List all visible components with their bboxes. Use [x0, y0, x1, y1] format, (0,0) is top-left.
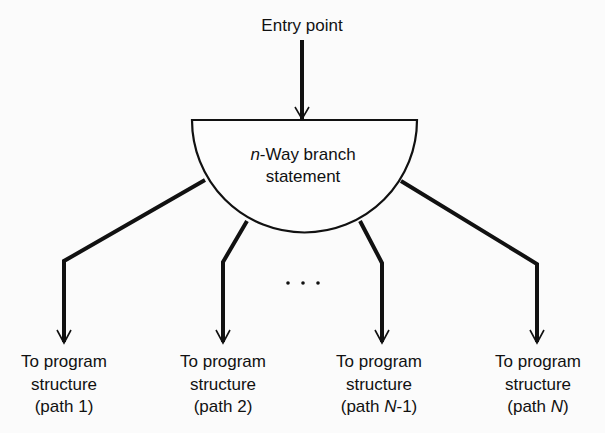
output-label-line: To program — [314, 351, 444, 374]
output-label-line: (path 2) — [158, 396, 288, 419]
path-suffix: 2) — [237, 397, 252, 416]
branch-path-n-minus-1 — [360, 221, 389, 343]
output-label-line: (path 1) — [0, 396, 129, 419]
output-label-path-1: To program structure (path 1) — [0, 351, 129, 419]
path-prefix: (path — [341, 397, 384, 416]
path-suffix: ) — [563, 397, 569, 416]
branch-node-prefix: n — [250, 145, 259, 164]
branch-path-2 — [216, 221, 247, 343]
output-label-line: To program — [0, 351, 129, 374]
path-prefix: (path — [194, 397, 237, 416]
path-variable: N — [551, 397, 563, 416]
path-prefix: (path — [507, 397, 550, 416]
branch-node-line-1: n-Way branch — [203, 144, 403, 166]
output-label-path-n-minus-1: To program structure (path N-1) — [314, 351, 444, 419]
output-label-line: structure — [0, 374, 129, 397]
path-prefix: (path — [35, 397, 78, 416]
branch-node-label: n-Way branch statement — [203, 144, 403, 188]
output-label-line: (path N-1) — [314, 396, 444, 419]
branch-path-n — [401, 181, 544, 343]
entry-arrow — [295, 40, 309, 119]
path-variable: N — [384, 397, 396, 416]
path-suffix: 1) — [78, 397, 93, 416]
branch-node-line-2: statement — [203, 166, 403, 188]
output-label-path-n: To program structure (path N) — [473, 351, 603, 419]
output-label-line: To program — [158, 351, 288, 374]
ellipsis-dots — [286, 281, 320, 285]
diagram-canvas: Entry point n-Way branch statement To pr… — [0, 0, 605, 433]
output-label-line: structure — [473, 374, 603, 397]
output-label-path-2: To program structure (path 2) — [158, 351, 288, 419]
path-suffix: -1) — [396, 397, 417, 416]
output-label-line: structure — [158, 374, 288, 397]
branch-path-1 — [57, 180, 205, 343]
branch-node-line-1-rest: -Way branch — [260, 145, 356, 164]
output-label-line: (path N) — [473, 396, 603, 419]
output-label-line: To program — [473, 351, 603, 374]
entry-point-label: Entry point — [222, 16, 382, 36]
output-label-line: structure — [314, 374, 444, 397]
